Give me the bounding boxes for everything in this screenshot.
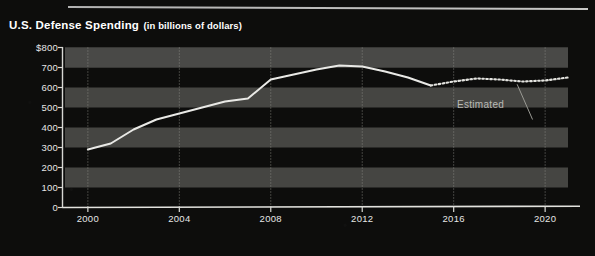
y-axis-tick-label: 200 bbox=[18, 163, 58, 173]
x-axis-tick-label: 2004 bbox=[168, 213, 190, 224]
x-axis-tick-label: 2012 bbox=[351, 213, 373, 224]
y-axis-tick-label: $800 bbox=[18, 43, 58, 53]
x-axis-tick-label: 2008 bbox=[260, 213, 282, 224]
chart-screenshot: U.S. Defense Spending (in billions of do… bbox=[0, 0, 595, 256]
chart-band bbox=[65, 168, 568, 188]
series-line-estimated bbox=[431, 78, 568, 86]
y-axis-tick-label: 300 bbox=[18, 143, 58, 153]
x-axis-tick-label: 2020 bbox=[534, 213, 556, 224]
y-axis-tick-label: 600 bbox=[18, 83, 58, 93]
y-axis-tick-label: 100 bbox=[18, 183, 58, 193]
estimated-annotation-label: Estimated bbox=[457, 99, 504, 110]
y-axis-tick-label: 0 bbox=[18, 203, 58, 213]
x-axis-labels: 200020042008201220162020 bbox=[0, 213, 595, 229]
y-axis-tick-label: 400 bbox=[18, 123, 58, 133]
chart-band bbox=[65, 48, 568, 68]
x-axis-tick-label: 2016 bbox=[443, 213, 465, 224]
x-axis-tick-label: 2000 bbox=[77, 213, 99, 224]
y-axis-tick-label: 500 bbox=[18, 103, 58, 113]
y-axis-tick-label: 700 bbox=[18, 63, 58, 73]
chart-band bbox=[65, 128, 568, 148]
